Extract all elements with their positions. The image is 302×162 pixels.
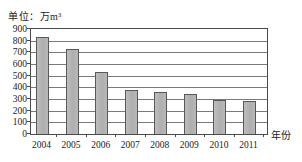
y-axis-tick bbox=[27, 133, 30, 134]
x-axis-tick bbox=[145, 134, 146, 137]
bar-2005 bbox=[66, 49, 79, 134]
y-axis-label: 200 bbox=[1, 106, 27, 116]
plot-area bbox=[30, 28, 268, 135]
unit-label: 单位：万m³ bbox=[8, 8, 62, 23]
y-axis-label: 400 bbox=[1, 82, 27, 92]
bar-2009 bbox=[184, 94, 197, 134]
x-axis-label: 2011 bbox=[233, 140, 263, 150]
x-axis-tick bbox=[86, 134, 87, 137]
y-axis-label: 900 bbox=[1, 24, 27, 34]
y-axis-label: 700 bbox=[1, 47, 27, 57]
x-axis-label: 2006 bbox=[86, 140, 116, 150]
y-axis-label: 800 bbox=[1, 36, 27, 46]
x-axis-tick bbox=[204, 134, 205, 137]
bar-2007 bbox=[125, 90, 138, 134]
y-axis-label: 600 bbox=[1, 59, 27, 69]
y-axis-tick bbox=[27, 75, 30, 76]
x-axis-tick bbox=[175, 134, 176, 137]
x-axis-title: 年份 bbox=[271, 127, 291, 142]
y-axis-label: 500 bbox=[1, 71, 27, 81]
x-axis-tick bbox=[263, 134, 264, 137]
y-axis-tick bbox=[27, 121, 30, 122]
y-axis-label: 100 bbox=[1, 117, 27, 127]
x-axis-label: 2004 bbox=[27, 140, 57, 150]
y-axis-label: 0 bbox=[1, 129, 27, 139]
x-axis-tick bbox=[115, 134, 116, 137]
bar-2011 bbox=[243, 101, 256, 134]
y-axis-tick bbox=[27, 40, 30, 41]
x-axis-label: 2005 bbox=[56, 140, 86, 150]
x-axis-label: 2010 bbox=[204, 140, 234, 150]
bar-2008 bbox=[154, 92, 167, 134]
y-axis-tick bbox=[27, 86, 30, 87]
bar-2004 bbox=[36, 37, 49, 134]
x-axis-label: 2008 bbox=[145, 140, 175, 150]
y-axis-tick bbox=[27, 110, 30, 111]
y-axis-tick bbox=[27, 63, 30, 64]
y-axis-label: 300 bbox=[1, 94, 27, 104]
x-axis-tick bbox=[56, 134, 57, 137]
bar-2010 bbox=[213, 100, 226, 134]
gridline bbox=[31, 41, 267, 42]
x-axis-tick bbox=[234, 134, 235, 137]
bar-2006 bbox=[95, 72, 108, 134]
x-axis-label: 2007 bbox=[115, 140, 145, 150]
y-axis-tick bbox=[27, 98, 30, 99]
y-axis-tick bbox=[27, 28, 30, 29]
y-axis-tick bbox=[27, 51, 30, 52]
x-axis-label: 2009 bbox=[174, 140, 204, 150]
